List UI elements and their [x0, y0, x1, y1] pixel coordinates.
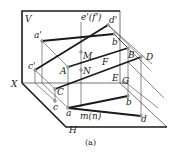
label-a: a [66, 108, 71, 118]
label-b-prime: b' [112, 37, 120, 47]
label-v: V [25, 14, 33, 24]
label-n: N [82, 66, 92, 76]
label-d-upper: D [145, 52, 153, 62]
label-c: c [53, 102, 58, 112]
label-b: b [126, 97, 132, 107]
label-d: d [141, 114, 147, 124]
label-e: E [111, 73, 119, 83]
label-g: G [122, 76, 129, 86]
label-ef-prime: e'(f') [81, 12, 102, 22]
figure-caption: (a) [85, 138, 96, 147]
label-m: M [82, 51, 93, 61]
label-h: H [68, 125, 77, 135]
label-c-prime: c' [28, 61, 36, 71]
label-a-prime: a' [34, 30, 42, 40]
label-f: F [101, 57, 109, 67]
label-x: X [10, 79, 18, 89]
label-mn: m(n) [80, 111, 102, 121]
label-a-upper: A [59, 66, 67, 76]
label-b-upper: B [127, 50, 135, 60]
label-c-upper: C [57, 87, 64, 97]
projection-diagram: V X H a' c' e'(f') d' b' M A N F B D E G… [0, 0, 180, 157]
label-d-prime: d' [109, 15, 117, 25]
